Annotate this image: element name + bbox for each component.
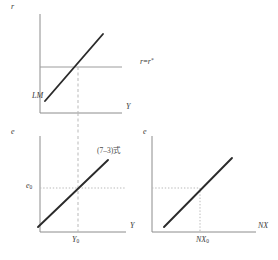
star-symbol: * [151,57,154,63]
bottom-left-x-axis-label: Y [130,222,134,230]
bottom-right-x-axis-label: NX [258,222,268,230]
lm-curve-label: LM [32,92,43,100]
equation-7-3-curve [38,160,108,227]
world-interest-rate-label: r=r* [140,58,154,66]
equation-7-3-label: (7–3)式 [97,147,120,155]
top-panel [40,14,122,113]
bottom-left-y0-tick-label: Y0 [72,236,79,245]
bottom-right-panel [152,136,256,232]
equation-suffix-shiki: 式 [113,146,120,155]
net-export-curve [164,158,232,227]
bottom-right-y-axis-label: e [143,128,147,136]
NX-subscript: 0 [206,238,209,244]
equation-number: (7–3) [97,146,113,155]
top-panel-y-axis-label: r [11,3,14,11]
economics-diagram [0,0,278,260]
e-subscript: 0 [30,184,33,190]
top-panel-x-axis-label: Y [126,103,130,111]
bottom-left-e0-tick-label: e0 [26,182,32,191]
bottom-left-y-axis-label: e [11,128,15,136]
Y-subscript: 0 [76,238,79,244]
bottom-right-nx0-tick-label: NX0 [196,236,209,245]
NX-symbol: NX [196,235,206,244]
